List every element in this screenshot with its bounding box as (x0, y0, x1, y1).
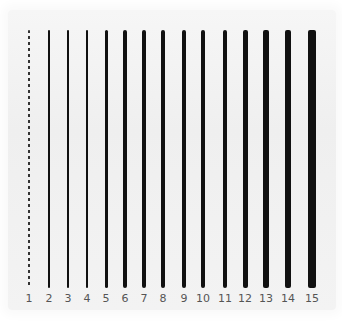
stroke-line-11 (223, 30, 228, 288)
stroke-line-14 (285, 30, 292, 288)
stroke-line-10 (201, 30, 205, 288)
stroke-label: 15 (300, 292, 324, 305)
stroke-line-2 (48, 30, 50, 288)
stroke-line-7 (142, 30, 145, 288)
stroke-label: 14 (276, 292, 300, 305)
stroke-line-9 (182, 30, 186, 288)
stroke-label: 13 (254, 292, 278, 305)
stroke-line-5 (105, 30, 108, 288)
stroke-line-15 (308, 30, 316, 288)
stroke-line-8 (161, 30, 165, 288)
stroke-label: 10 (191, 292, 215, 305)
stroke-line-6 (123, 30, 126, 288)
stroke-line-3 (67, 30, 69, 288)
stroke-line-13 (263, 30, 269, 288)
stroke-line-1 (28, 30, 29, 288)
stroke-line-12 (243, 30, 248, 288)
stroke-line-4 (86, 30, 89, 288)
